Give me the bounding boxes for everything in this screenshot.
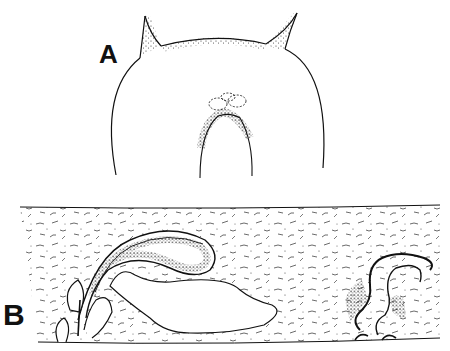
illustration-svg [0, 0, 450, 351]
scientific-figure: A B [0, 0, 450, 351]
panel-label-b: B [3, 300, 25, 330]
panel-a-drawing [111, 13, 324, 178]
panel-label-a: A [99, 41, 118, 67]
panel-b-drawing [20, 205, 440, 343]
